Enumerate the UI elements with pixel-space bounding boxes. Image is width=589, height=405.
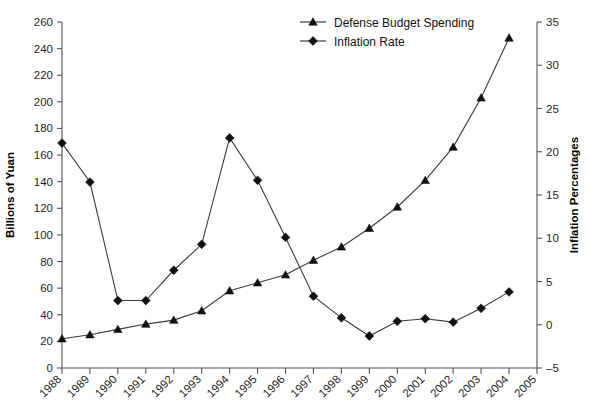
data-point-1	[337, 243, 345, 250]
x-axis-tick-label: 1999	[344, 373, 371, 400]
x-axis-tick-label: 1988	[37, 373, 64, 400]
data-point-2	[225, 134, 234, 143]
dual-axis-line-chart: 020406080100120140160180200220240260–505…	[0, 0, 589, 405]
data-point-1	[505, 34, 513, 41]
x-axis-tick-label: 1998	[316, 373, 343, 400]
legend-marker-2	[309, 37, 318, 46]
y2-axis-tick-label: 35	[546, 16, 559, 28]
y-axis-tick-label: 240	[34, 43, 53, 55]
x-axis-tick-label: 2003	[456, 373, 483, 400]
legend-label-2: Inflation Rate	[334, 35, 405, 49]
data-point-2	[449, 318, 458, 327]
data-point-2	[113, 296, 122, 305]
y2-axis-tick-label: 30	[546, 59, 559, 71]
y-axis-tick-label: 140	[34, 176, 53, 188]
data-point-2	[337, 313, 346, 322]
y-axis-tick-label: 40	[40, 309, 53, 321]
y-axis-title: Billions of Yuan	[4, 152, 16, 238]
series-line-1	[62, 38, 509, 339]
x-axis-tick-label: 2005	[512, 373, 539, 400]
y2-axis-tick-label: 5	[546, 276, 552, 288]
data-point-1	[365, 224, 373, 231]
data-point-1	[477, 94, 485, 101]
legend-label-1: Defense Budget Spending	[334, 16, 474, 30]
data-point-2	[477, 304, 486, 313]
x-axis-tick-label: 1993	[177, 373, 204, 400]
y2-axis-tick-label: 0	[546, 319, 552, 331]
data-point-2	[253, 176, 262, 185]
y-axis-tick-label: 100	[34, 229, 53, 241]
x-axis-tick-label: 1989	[65, 373, 92, 400]
y-axis-tick-label: 60	[40, 282, 53, 294]
x-axis-tick-label: 1997	[288, 373, 315, 400]
y2-axis-title: Inflation Percentages	[568, 137, 580, 253]
x-axis-tick-label: 2001	[400, 373, 427, 400]
data-point-2	[309, 292, 318, 301]
y2-axis-tick-label: 15	[546, 189, 559, 201]
y-axis-tick-label: 260	[34, 16, 53, 28]
data-point-2	[86, 178, 95, 187]
data-point-2	[505, 287, 514, 296]
data-point-2	[421, 314, 430, 323]
x-axis-tick-label: 2000	[372, 373, 399, 400]
data-point-1	[309, 256, 317, 263]
y-axis-tick-label: 180	[34, 122, 53, 134]
y2-axis-tick-label: –5	[546, 362, 559, 374]
x-axis-tick-label: 2004	[484, 373, 511, 400]
y2-axis-tick-label: 10	[546, 232, 559, 244]
x-axis-tick-label: 1994	[204, 373, 231, 400]
data-point-2	[281, 233, 290, 242]
data-point-2	[365, 332, 374, 341]
y-axis-tick-label: 220	[34, 69, 53, 81]
x-axis-tick-label: 1991	[121, 373, 148, 400]
y-axis-tick-label: 120	[34, 202, 53, 214]
x-axis-tick-label: 1996	[260, 373, 287, 400]
y-axis-tick-label: 20	[40, 335, 53, 347]
y2-axis-tick-label: 20	[546, 146, 559, 158]
y-axis-tick-label: 80	[40, 256, 53, 268]
data-point-1	[449, 143, 457, 150]
x-axis-tick-label: 1995	[232, 373, 259, 400]
x-axis-tick-label: 1992	[149, 373, 176, 400]
y-axis-tick-label: 200	[34, 96, 53, 108]
y-axis-tick-label: 160	[34, 149, 53, 161]
y-axis-tick-label: 0	[47, 362, 53, 374]
y2-axis-tick-label: 25	[546, 103, 559, 115]
x-axis-tick-label: 2002	[428, 373, 455, 400]
data-point-2	[393, 317, 402, 326]
data-point-1	[281, 271, 289, 278]
data-point-2	[58, 139, 67, 148]
x-axis-tick-label: 1990	[93, 373, 120, 400]
data-point-1	[198, 307, 206, 314]
chart-container: 020406080100120140160180200220240260–505…	[0, 0, 589, 405]
